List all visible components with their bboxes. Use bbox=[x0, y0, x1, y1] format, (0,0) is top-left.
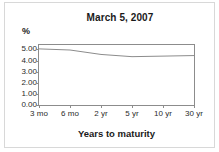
yield-line bbox=[39, 49, 194, 57]
x-tick-label: 6 mo bbox=[61, 110, 79, 118]
y-tick-mark bbox=[36, 94, 39, 95]
plot-area: 0.001.002.003.004.005.003 mo6 mo2 yr5 yr… bbox=[38, 44, 195, 106]
y-tick-mark bbox=[36, 61, 39, 62]
yield-curve-figure: March 5, 2007 % 0.001.002.003.004.005.00… bbox=[0, 0, 219, 152]
y-tick-mark bbox=[36, 83, 39, 84]
x-axis-title: Years to maturity bbox=[38, 128, 195, 139]
x-tick-mark bbox=[101, 105, 102, 108]
x-tick-label: 30 yr bbox=[185, 110, 203, 118]
y-tick-label: 3.00 bbox=[21, 68, 37, 76]
y-axis-label: % bbox=[22, 26, 30, 36]
chart-title: March 5, 2007 bbox=[40, 12, 200, 23]
y-tick-label: 4.00 bbox=[21, 57, 37, 65]
x-tick-label: 2 yr bbox=[94, 110, 107, 118]
x-tick-label: 10 yr bbox=[154, 110, 172, 118]
x-tick-mark bbox=[70, 105, 71, 108]
x-tick-mark bbox=[194, 105, 195, 108]
y-tick-mark bbox=[36, 49, 39, 50]
x-tick-mark bbox=[132, 105, 133, 108]
y-tick-mark bbox=[36, 72, 39, 73]
x-tick-label: 3 mo bbox=[30, 110, 48, 118]
y-tick-label: 1.00 bbox=[21, 90, 37, 98]
y-tick-label: 2.00 bbox=[21, 79, 37, 87]
yield-line-series bbox=[39, 45, 194, 105]
x-tick-mark bbox=[39, 105, 40, 108]
y-tick-label: 5.00 bbox=[21, 45, 37, 53]
x-tick-mark bbox=[163, 105, 164, 108]
y-tick-label: 0.00 bbox=[21, 101, 37, 109]
x-tick-label: 5 yr bbox=[125, 110, 138, 118]
